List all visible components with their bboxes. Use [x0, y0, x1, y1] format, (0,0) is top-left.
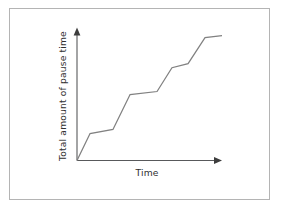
y-axis-arrowhead [74, 28, 81, 36]
y-axis-label: Total amount of pause time [57, 31, 68, 162]
pause-time-step-curve [77, 36, 222, 161]
figure-root: Time Total amount of pause time [0, 0, 281, 211]
step-chart: Time Total amount of pause time [0, 0, 281, 211]
x-axis-arrowhead [214, 157, 222, 164]
x-axis-label: Time [134, 167, 158, 178]
